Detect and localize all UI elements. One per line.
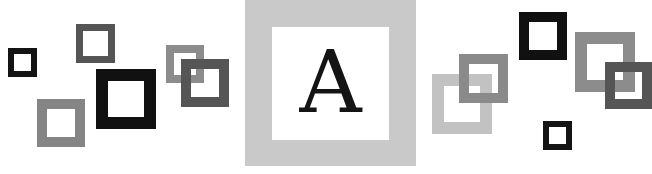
black-square-top-right	[519, 12, 567, 60]
gray-square-bottom-left	[37, 99, 85, 147]
dark-gray-square-top-left	[76, 24, 115, 63]
small-black-square-left	[8, 48, 37, 77]
dark-gray-square-mid-left	[181, 59, 229, 107]
large-black-square-left	[96, 69, 156, 129]
dark-gray-square-far-right	[605, 62, 652, 109]
center-letter-frame: A	[245, 0, 416, 166]
small-black-square-bottom-right	[543, 121, 572, 150]
center-letter-panel: A	[272, 27, 389, 140]
gray-square-right	[459, 54, 508, 103]
letter-a-glyph: A	[299, 39, 361, 125]
